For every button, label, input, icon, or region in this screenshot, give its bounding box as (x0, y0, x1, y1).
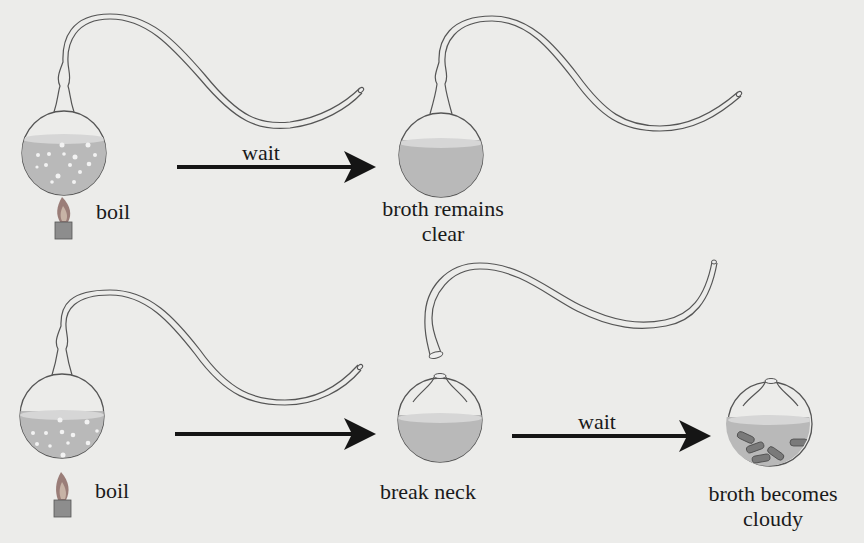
label-bottom-result-line1: broth becomes (693, 481, 853, 506)
flask-bottom-boiling (18, 290, 364, 471)
label-bottom-result-line2: cloudy (693, 506, 853, 531)
burner-bottom-icon (54, 472, 71, 517)
diagram-canvas (0, 0, 864, 543)
label-bottom-break: break neck (380, 479, 476, 504)
flask-bottom-broken-neck (395, 374, 485, 476)
label-top-wait: wait (242, 140, 280, 165)
label-top-result-line1: broth remains (368, 196, 518, 221)
label-top-result-line2: clear (368, 221, 518, 246)
label-bottom-result: broth becomes cloudy (693, 481, 853, 531)
burner-top-icon (55, 197, 72, 239)
label-top-result: broth remains clear (368, 196, 518, 246)
flask-top-boiling (20, 14, 365, 197)
label-bottom-boil: boil (95, 478, 129, 503)
label-bottom-wait: wait (578, 409, 616, 434)
flask-bottom-cloudy (725, 379, 815, 478)
label-top-boil: boil (96, 199, 130, 224)
flask-top-clear (395, 16, 743, 200)
detached-neck (425, 260, 717, 360)
